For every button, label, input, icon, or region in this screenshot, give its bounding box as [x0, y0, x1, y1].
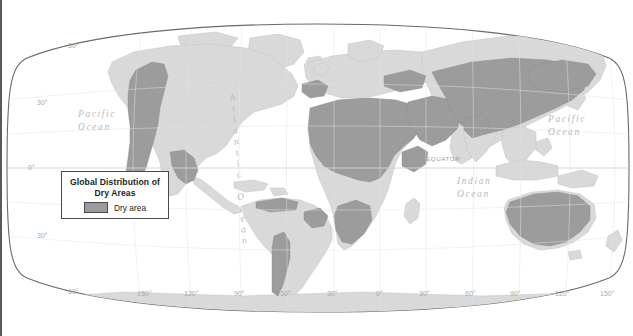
- latitude-label-3: 30°: [37, 232, 48, 239]
- legend-swatch-label: Dry area: [114, 203, 146, 213]
- longitude-label-6: 30°: [419, 290, 430, 297]
- equator-label: EQUATOR: [426, 155, 460, 162]
- latitude-label-1: 30°: [37, 99, 48, 106]
- longitude-label-7: 60°: [465, 290, 476, 297]
- longitude-label-8: 90°: [510, 290, 521, 297]
- legend-entry-dry-area: Dry area: [66, 202, 164, 213]
- ocean-label-atlantic: Atlantic Ocean: [226, 92, 242, 246]
- longitude-label-5: 0°: [376, 290, 383, 297]
- latitude-label-0: 60°: [68, 42, 79, 49]
- longitude-label-0: 150°: [137, 290, 151, 297]
- longitude-label-2: 90°: [234, 290, 245, 297]
- world-map-graphic: [2, 0, 633, 336]
- pacific-right-line2: Ocean: [548, 126, 586, 139]
- map-legend: Global Distribution of Dry Areas Dry are…: [61, 171, 169, 219]
- latitude-label-4: 60°: [68, 288, 79, 295]
- ocean-label-pacific-left: Pacific Ocean: [78, 108, 116, 134]
- legend-title-line1: Global Distribution of: [66, 177, 164, 188]
- pacific-left-line2: Ocean: [78, 121, 116, 134]
- ocean-label-indian: Indian Ocean: [457, 175, 491, 201]
- longitude-label-1: 120°: [184, 290, 198, 297]
- land-tasmania: [568, 250, 582, 260]
- longitude-label-9: 120°: [555, 290, 569, 297]
- legend-title-line2: Dry Areas: [66, 188, 164, 199]
- longitude-label-3: 60°: [280, 290, 291, 297]
- latitude-label-2: 0°: [28, 164, 35, 171]
- ocean-label-pacific-right: Pacific Ocean: [548, 113, 586, 139]
- pacific-right-line1: Pacific: [548, 113, 586, 126]
- dry-areas-world-map-figure: Pacific Ocean Pacific Ocean Indian Ocean…: [0, 0, 633, 336]
- legend-title: Global Distribution of Dry Areas: [66, 177, 164, 198]
- longitude-label-4: 30°: [327, 290, 338, 297]
- indian-line2: Ocean: [457, 188, 491, 201]
- legend-swatch-dry-area: [84, 202, 108, 213]
- indian-line1: Indian: [457, 175, 491, 188]
- pacific-left-line1: Pacific: [78, 108, 116, 121]
- longitude-label-10: 150°: [600, 290, 614, 297]
